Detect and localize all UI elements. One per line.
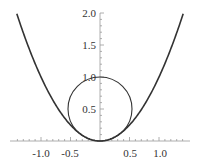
- y-tick-label: 0.5: [82, 103, 96, 115]
- x-tick-labels: -1.0 -0.5 0.5 1.0: [32, 147, 167, 159]
- chart: -1.0 -0.5 0.5 1.0 0.5 1.0 1.5 2.0: [0, 0, 204, 166]
- x-tick-label: 1.0: [153, 147, 167, 159]
- y-tick-label: 1.5: [82, 39, 96, 51]
- y-tick-label: 2.0: [82, 7, 96, 19]
- y-tick-labels: 0.5 1.0 1.5 2.0: [82, 7, 96, 115]
- x-tick-label: -0.5: [61, 147, 79, 159]
- x-tick-label: 0.5: [123, 147, 137, 159]
- x-tick-label: -1.0: [32, 147, 50, 159]
